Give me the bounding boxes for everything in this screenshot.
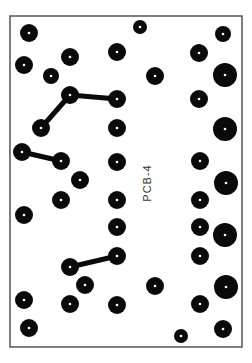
pad	[213, 63, 237, 87]
drill-hole	[199, 199, 202, 202]
pad	[108, 218, 126, 236]
drill-hole	[224, 74, 227, 77]
drill-hole	[69, 94, 72, 97]
pcb-drawing	[0, 0, 252, 363]
drill-hole	[21, 151, 24, 154]
drill-hole	[116, 199, 119, 202]
pad	[15, 56, 33, 74]
drill-hole	[199, 255, 202, 258]
pad	[191, 191, 209, 209]
pad	[215, 26, 231, 42]
pad	[15, 206, 33, 224]
pad	[61, 48, 79, 66]
pad	[214, 275, 238, 299]
drill-hole	[116, 255, 119, 258]
drill-hole	[69, 266, 72, 269]
pad	[15, 291, 33, 309]
drill-hole	[116, 226, 119, 229]
drill-hole	[154, 75, 157, 78]
drill-hole	[23, 299, 26, 302]
drill-hole	[116, 127, 119, 130]
board-outline	[10, 16, 242, 347]
drill-hole	[60, 199, 63, 202]
pad	[146, 67, 164, 85]
drill-hole	[199, 303, 202, 306]
drill-hole	[50, 75, 53, 78]
drill-hole	[198, 98, 201, 101]
drill-hole	[116, 98, 119, 101]
drill-hole	[198, 52, 201, 55]
drill-hole	[222, 328, 225, 331]
drill-hole	[28, 32, 31, 35]
drill-hole	[224, 234, 227, 237]
pad	[61, 258, 79, 276]
drill-hole	[116, 304, 119, 307]
drill-hole	[116, 161, 119, 164]
pad	[13, 143, 31, 161]
drill-hole	[225, 286, 228, 289]
pad	[61, 86, 79, 104]
pad	[214, 320, 232, 338]
drill-hole	[28, 327, 31, 330]
pad	[133, 20, 147, 34]
drill-hole	[199, 160, 202, 163]
pad	[191, 295, 209, 313]
drill-hole	[180, 335, 183, 338]
drill-hole	[40, 127, 43, 130]
pad	[108, 191, 126, 209]
drill-hole	[224, 128, 227, 131]
pad	[52, 152, 70, 170]
pad	[190, 44, 208, 62]
drill-hole	[69, 56, 72, 59]
drill-hole	[116, 51, 119, 54]
pad	[76, 276, 94, 294]
pad	[71, 171, 89, 189]
drill-hole	[84, 284, 87, 287]
drill-hole	[23, 64, 26, 67]
pad	[191, 152, 209, 170]
drill-hole	[139, 26, 142, 29]
board-label: PCB-4	[141, 164, 153, 201]
pad	[108, 43, 126, 61]
pad	[108, 119, 126, 137]
drill-hole	[69, 303, 72, 306]
pad	[174, 329, 188, 343]
pad-layer	[13, 20, 238, 343]
pad	[108, 247, 126, 265]
pad	[61, 295, 79, 313]
drill-hole	[222, 33, 225, 36]
drill-hole	[60, 160, 63, 163]
drill-hole	[79, 179, 82, 182]
pad	[20, 24, 38, 42]
pad	[191, 247, 209, 265]
pad	[191, 218, 209, 236]
pad	[213, 223, 237, 247]
pad	[190, 90, 208, 108]
drill-hole	[23, 214, 26, 217]
pad	[52, 191, 70, 209]
pad	[214, 171, 238, 195]
pad	[108, 90, 126, 108]
drill-hole	[225, 182, 228, 185]
pad	[108, 153, 126, 171]
drill-hole	[154, 285, 157, 288]
pad	[213, 117, 237, 141]
pad	[108, 296, 126, 314]
pad	[32, 119, 50, 137]
drill-hole	[199, 226, 202, 229]
pad	[146, 277, 164, 295]
pad	[43, 68, 59, 84]
pad	[20, 319, 38, 337]
